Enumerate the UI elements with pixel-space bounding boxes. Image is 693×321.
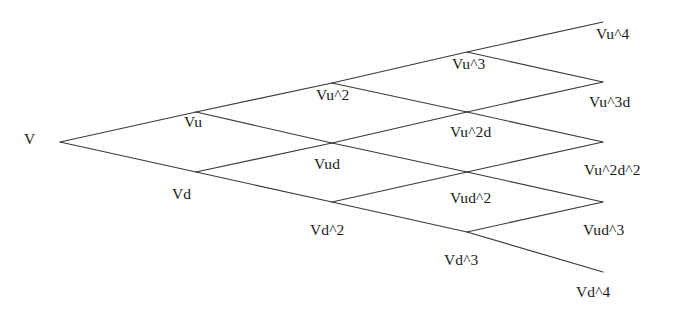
node-label-n1_0: Vd	[172, 186, 191, 202]
node-label-n4_3: Vu^3d	[589, 94, 630, 110]
lattice-edge-up	[196, 83, 332, 112]
node-label-n1_1: Vu	[184, 114, 202, 130]
lattice-edge-down	[196, 172, 332, 202]
node-label-n3_2: Vu^2d	[450, 124, 491, 140]
node-label-n4_4: Vu^4	[596, 26, 629, 42]
lattice-edge-up	[332, 112, 467, 143]
lattice-edge-down	[332, 83, 467, 112]
node-label-n2_0: Vd^2	[310, 222, 344, 238]
lattice-edge-up	[196, 143, 332, 172]
binomial-lattice-diagram: VVuVdVu^2VudVd^2Vu^3Vu^2dVud^2Vd^3Vu^4Vu…	[0, 0, 693, 321]
node-label-n3_3: Vu^3	[452, 56, 485, 72]
node-label-n4_2: Vu^2d^2	[584, 162, 641, 178]
node-label-n4_1: Vud^3	[583, 222, 624, 238]
lattice-edge-down	[196, 112, 332, 143]
node-label-n4_0: Vd^4	[576, 284, 610, 300]
lattice-edge-down	[332, 202, 467, 232]
node-label-n3_1: Vud^2	[450, 190, 491, 206]
lattice-edge-up	[332, 52, 467, 83]
node-label-n2_2: Vu^2	[316, 87, 349, 103]
lattice-edge-down	[332, 143, 467, 172]
node-label-n3_0: Vd^3	[444, 252, 478, 268]
lattice-edge-down	[60, 142, 196, 172]
lattice-edge-down	[467, 52, 603, 82]
lattice-edge-up	[467, 82, 603, 112]
lattice-edge-up	[467, 142, 603, 172]
lattice-edge-down	[467, 232, 603, 272]
lattice-edge-up	[60, 112, 196, 142]
lattice-edge-up	[332, 172, 467, 202]
lattice-edge-up	[467, 22, 603, 52]
node-label-n2_1: Vud	[314, 156, 340, 172]
node-label-n0_0: V	[24, 131, 35, 147]
